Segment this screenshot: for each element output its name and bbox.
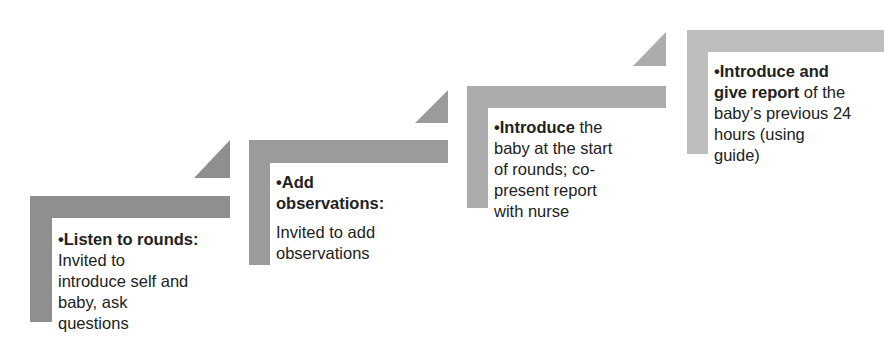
- step-1-line: Invited to: [58, 250, 228, 271]
- step-2-title-cont: observations:: [276, 194, 384, 212]
- step-4-line: guide): [714, 145, 890, 166]
- step-2-title: •Add: [276, 173, 314, 191]
- step-1-text: •Listen to rounds: Invited to introduce …: [58, 229, 228, 334]
- step-3-text: •Introduce the baby at the start of roun…: [494, 117, 664, 222]
- step-3-line: present report: [494, 180, 664, 201]
- step-2-side-bar: [249, 140, 270, 265]
- step-3-side-bar: [467, 86, 488, 208]
- step-4-title-rest: of the: [799, 83, 845, 101]
- step-4-line: hours (using: [714, 124, 890, 145]
- step-4-line: baby’s previous 24: [714, 103, 890, 124]
- step-3-title: •Introduce: [494, 118, 575, 136]
- step-3-top-bar: [467, 86, 666, 108]
- step-1-line: introduce self and: [58, 271, 228, 292]
- step-1-side-bar: [30, 196, 52, 322]
- step-2-top-bar: [249, 140, 448, 163]
- step-3-title-rest: the: [575, 118, 603, 136]
- step-1-line: baby, ask: [58, 292, 228, 313]
- step-4-title-cont: give report: [714, 83, 799, 101]
- step-4-top-bar: [687, 30, 884, 52]
- step-3-line: with nurse: [494, 201, 664, 222]
- step-2-arrow-triangle: [415, 90, 448, 123]
- step-4-side-bar: [687, 30, 708, 154]
- step-3-arrow-triangle: [633, 32, 666, 66]
- step-1-line: questions: [58, 313, 228, 334]
- step-4-text: •Introduce and give report of the baby’s…: [714, 61, 890, 166]
- step-2-line: Invited to add: [276, 222, 446, 243]
- step-2-text: •Add observations: Invited to add observ…: [276, 172, 446, 264]
- step-1-top-bar: [30, 196, 230, 218]
- step-4-title: •Introduce and: [714, 62, 829, 80]
- step-3-line: baby at the start: [494, 138, 664, 159]
- step-1-arrow-triangle: [194, 140, 230, 178]
- step-3-line: of rounds; co-: [494, 159, 664, 180]
- step-2-line: observations: [276, 243, 446, 264]
- step-1-title: •Listen to rounds:: [58, 230, 199, 248]
